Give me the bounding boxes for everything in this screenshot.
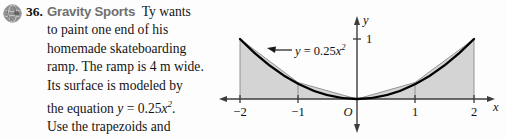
problem-text: Gravity Sports Ty wants to paint one end… [47,3,237,138]
y-axis-bottom-arrow [354,124,360,133]
y-axis-label: y [361,13,369,27]
equation-equals: = 0.25 [301,44,336,58]
problem-line-4: ramp. The ramp is 4 m wide. [47,58,237,76]
xtick-label-minus2: −2 [233,105,246,119]
line-6-post: . [172,101,175,116]
equation-label: y = 0.25x2 [293,42,346,58]
xtick-label-1: 1 [412,105,418,119]
problem-line-3: homemade skateboarding [47,40,237,58]
problem-line-2: to paint one end of his [47,21,237,39]
ytick-label-1: 1 [366,32,372,46]
xtick-label-minus1: −1 [291,105,304,119]
problem-number: 36. [26,4,43,20]
globe-icon [3,4,22,23]
problem-line-1: Gravity Sports Ty wants [47,3,237,21]
equation-exponent: 2 [341,42,346,52]
exercise-page: 36. Gravity Sports Ty wants to paint one… [0,0,507,138]
category-label: Gravity Sports [47,4,135,19]
y-axis [354,16,360,133]
problem-line-8: triangles shown to estimate [47,136,237,138]
parabola-graph: −2 −1 1 2 O 1 x y y = 0.25x2 [210,0,507,138]
graph-svg: −2 −1 1 2 O 1 x y y = 0.25x2 [210,0,507,138]
problem-line-7: Use the trapezoids and [47,118,237,136]
equation-callout: y = 0.25x2 [267,42,346,58]
problem-line-5: Its surface is modeled by [47,77,237,95]
origin-label: O [343,105,352,119]
x-axis-label: x [492,100,499,114]
line-1-text: Ty wants [142,4,191,19]
xtick-label-2: 2 [471,105,477,119]
y-axis-top-arrow [354,16,360,25]
line-6-pre: the equation [47,101,117,116]
line-6-equals: = 0.25 [123,101,161,116]
problem-line-6: the equation y = 0.25x2. [47,95,237,118]
callout-arrowhead [267,47,276,54]
x-axis-left-arrow [219,96,227,102]
